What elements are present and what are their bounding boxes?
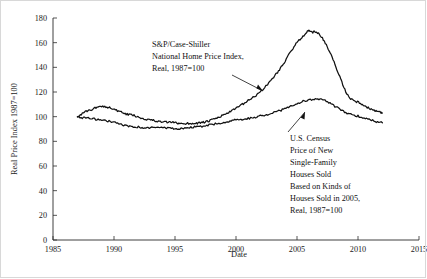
chart-figure: 1985199019952000200520102015 02040608010… [0,0,427,279]
annotation-case-shiller-line3: Real, 1987=100 [152,64,204,73]
y-tick-label-160: 160 [35,39,47,48]
annotation-us-census-line3: Single-Family [290,158,338,167]
x-tick-label-1995: 1995 [167,245,183,254]
annotation-us-census-line6: Houses Sold in 2005, [290,194,360,203]
annotation-us-census-line2: Price of New [290,146,333,155]
y-tick-label-120: 120 [35,88,47,97]
annotation-us-census-line5: Based on Kinds of [290,182,351,191]
x-tick-label-1990: 1990 [106,245,122,254]
y-tick-label-80: 80 [39,137,47,146]
y-tick-label-40: 40 [39,187,47,196]
x-axis-title: Date [231,250,247,259]
y-tick-label-60: 60 [39,162,47,171]
y-tick-label-20: 20 [39,211,47,220]
annotation-case-shiller-line1: S&P/Case-Shiller [152,40,210,49]
annotation-us-census-line4: Houses Sold [290,170,331,179]
y-tick-label-0: 0 [43,236,47,245]
annotation-us-census-line7: Real, 1987=100 [290,206,342,215]
y-axis-title: Real Price Index 1987=100 [10,83,19,175]
x-tick-label-2015: 2015 [411,245,427,254]
annotation-us-census-line1: U.S. Census [290,134,330,143]
chart-background [0,0,427,279]
y-tick-label-140: 140 [35,63,47,72]
x-tick-label-2005: 2005 [289,245,305,254]
x-tick-label-1985: 1985 [45,245,61,254]
y-tick-label-180: 180 [35,14,47,23]
annotation-case-shiller-line2: National Home Price Index, [152,52,244,61]
x-tick-label-2010: 2010 [350,245,366,254]
line-chart: 1985199019952000200520102015 02040608010… [0,0,427,279]
y-tick-label-100: 100 [35,113,47,122]
